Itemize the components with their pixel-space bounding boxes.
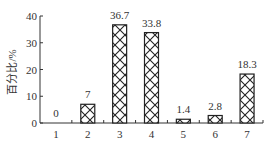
y-axis-label: 百分比/% bbox=[6, 49, 18, 94]
bar bbox=[208, 116, 222, 123]
bar-chart: 010203040 1234567 0736.733.81.42.818.3 百… bbox=[0, 0, 276, 145]
bar bbox=[176, 119, 190, 123]
x-tick-label: 7 bbox=[244, 128, 250, 140]
data-label: 2.8 bbox=[208, 100, 222, 112]
data-label: 7 bbox=[85, 88, 91, 100]
y-tick-label: 0 bbox=[32, 117, 38, 129]
x-tick-label: 3 bbox=[117, 128, 123, 140]
bar bbox=[81, 104, 95, 123]
bar bbox=[145, 33, 159, 123]
bar bbox=[113, 25, 127, 123]
data-label: 36.7 bbox=[110, 9, 130, 21]
y-tick-label: 30 bbox=[26, 37, 38, 49]
data-label: 0 bbox=[53, 107, 59, 119]
y-tick-label: 10 bbox=[26, 90, 38, 102]
x-tick-label: 4 bbox=[149, 128, 155, 140]
x-tick-label: 1 bbox=[53, 128, 59, 140]
bars: 0736.733.81.42.818.3 bbox=[53, 9, 257, 123]
y-tick-label: 20 bbox=[26, 64, 38, 76]
y-axis: 010203040 bbox=[26, 10, 43, 129]
data-label: 18.3 bbox=[237, 58, 257, 70]
y-tick-label: 40 bbox=[26, 10, 38, 22]
x-tick-label: 5 bbox=[181, 128, 187, 140]
x-tick-label: 2 bbox=[85, 128, 91, 140]
bar bbox=[240, 74, 254, 123]
data-label: 33.8 bbox=[142, 17, 162, 29]
x-tick-label: 6 bbox=[212, 128, 218, 140]
data-label: 1.4 bbox=[176, 103, 190, 115]
